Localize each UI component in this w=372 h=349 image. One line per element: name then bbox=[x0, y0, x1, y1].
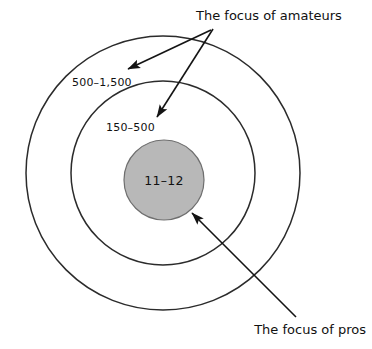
leader-arrow-core-circle bbox=[192, 213, 296, 317]
middle-ring-label: 150–500 bbox=[106, 121, 155, 134]
callout-amateurs-label: The focus of amateurs bbox=[195, 8, 342, 23]
diagram-canvas: 500–1,500 150–500 11–12 The focus of ama… bbox=[0, 0, 372, 349]
core-circle-label: 11–12 bbox=[144, 173, 184, 188]
outer-ring-label: 500–1,500 bbox=[72, 76, 132, 89]
callout-pros-label: The focus of pros bbox=[253, 322, 366, 337]
concentric-rings-diagram: 500–1,500 150–500 11–12 The focus of ama… bbox=[0, 0, 372, 349]
